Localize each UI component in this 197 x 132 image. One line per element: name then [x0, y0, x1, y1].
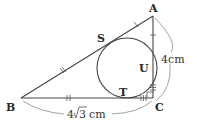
measure-ac: 4cm: [161, 53, 185, 66]
measure-bc-unit: cm: [89, 108, 106, 121]
measure-bc-radicand: 3: [79, 108, 86, 121]
label-u: U: [139, 62, 149, 75]
ac-measure-arc: [155, 18, 173, 52]
side-ab: [21, 16, 153, 98]
right-angle-marker: [147, 92, 153, 98]
label-s: S: [97, 32, 105, 45]
measure-bc-coef: 4: [67, 108, 74, 121]
label-b: B: [6, 101, 15, 114]
label-c: C: [155, 101, 164, 114]
ac-measure-arc-lower: [156, 64, 170, 101]
bc-measure-arc-right: [112, 101, 152, 114]
label-t: T: [119, 86, 128, 99]
label-a: A: [148, 2, 158, 15]
triangle-incircle-diagram: A B C S T U 4cm 4 3 cm: [0, 0, 197, 132]
bc-measure-arc-left: [23, 101, 64, 114]
